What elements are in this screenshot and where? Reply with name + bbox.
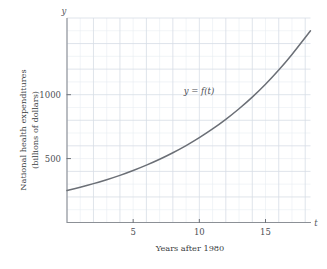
y-tick-label: 500	[45, 154, 61, 164]
curve-annotation-label: y = f(t)	[183, 86, 215, 96]
y-axis-title-line1: National health expenditures	[18, 69, 28, 190]
x-tick-label: 10	[194, 227, 205, 237]
x-axis-title: Years after 1980	[155, 243, 225, 253]
y-tick-labels: 5001000	[39, 90, 61, 164]
x-tick-labels: 51015	[130, 227, 270, 237]
y-axis-title-line2: (billions of dollars)	[30, 91, 40, 169]
chart-figure: 51015 5001000 y t y = f(t) Years after 1…	[0, 0, 327, 269]
x-axis-symbol: t	[314, 218, 318, 228]
grid-major	[67, 18, 311, 223]
x-tick-label: 15	[260, 227, 271, 237]
x-tick-label: 5	[130, 227, 135, 237]
y-axis-symbol: y	[61, 6, 67, 16]
data-curve	[67, 31, 311, 191]
y-tick-label: 1000	[39, 90, 61, 100]
health-expenditures-chart: 51015 5001000 y t y = f(t) Years after 1…	[0, 0, 327, 269]
